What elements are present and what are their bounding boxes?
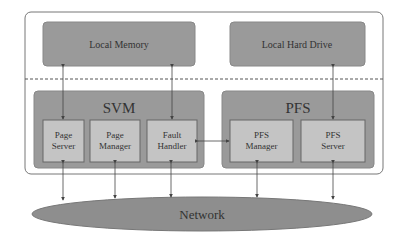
architecture-diagram: Local Memory Local Hard Drive SVM Page S… (0, 0, 404, 239)
network-ellipse: Network (32, 197, 372, 231)
pfs-title: PFS (285, 100, 310, 116)
local-hard-drive-label: Local Hard Drive (262, 39, 333, 50)
pfs-server-label-1: PFS (325, 130, 340, 140)
pfs-box: PFS PFS Manager PFS Server (222, 91, 374, 168)
local-hard-drive-box: Local Hard Drive (230, 22, 365, 66)
pfs-manager-box: PFS Manager (230, 120, 293, 162)
fault-handler-label-2: Handler (158, 141, 187, 151)
pfs-server-label-2: Server (321, 141, 345, 151)
pfs-manager-label-1: PFS (254, 130, 269, 140)
pfs-server-box: PFS Server (301, 120, 365, 162)
page-manager-label-2: Manager (99, 141, 131, 151)
local-memory-label: Local Memory (89, 39, 149, 50)
pfs-manager-label-2: Manager (246, 141, 278, 151)
svm-title: SVM (103, 100, 136, 116)
page-manager-box: Page Manager (90, 120, 140, 162)
page-server-label-2: Server (52, 141, 76, 151)
local-memory-box: Local Memory (43, 22, 195, 66)
fault-handler-label-1: Fault (163, 130, 182, 140)
page-server-label-1: Page (55, 130, 73, 140)
page-manager-label-1: Page (106, 130, 124, 140)
svm-box: SVM Page Server Page Manager Fault Handl… (34, 91, 204, 168)
fault-handler-box: Fault Handler (147, 120, 197, 162)
network-label: Network (179, 207, 225, 222)
page-server-box: Page Server (43, 120, 84, 162)
